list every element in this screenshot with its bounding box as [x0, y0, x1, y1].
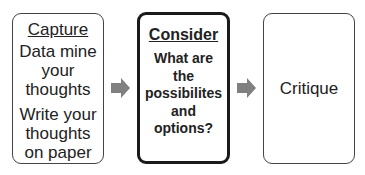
capture-line: on paper — [19, 143, 96, 162]
capture-line: Write your — [19, 105, 96, 124]
consider-line: What are — [154, 50, 213, 68]
step-consider-title: Consider — [149, 25, 218, 45]
step-capture-box: Capture Data mine your thoughts Write yo… — [12, 13, 104, 164]
step-critique-title: Critique — [280, 79, 339, 99]
step-critique-box: Critique — [263, 13, 355, 164]
step-capture-title: Capture — [28, 19, 88, 40]
capture-group-write: Write your thoughts on paper — [19, 105, 96, 162]
capture-group-data-mine: Data mine your thoughts — [19, 42, 96, 99]
consider-line: the — [173, 68, 194, 86]
capture-line: Data mine — [19, 42, 96, 61]
consider-line: and — [171, 103, 196, 121]
consider-line: possibilites — [145, 85, 222, 103]
step-consider-box: Consider What are the possibilites and o… — [137, 12, 230, 164]
capture-line: thoughts — [19, 80, 96, 99]
capture-line: thoughts — [19, 124, 96, 143]
capture-line: your — [19, 61, 96, 80]
consider-line: options? — [154, 120, 213, 138]
